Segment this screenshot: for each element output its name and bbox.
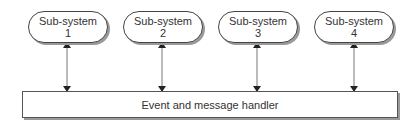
subsystem-2-number: 2 <box>160 27 166 39</box>
subsystem-2-node: Sub-system 2 <box>123 11 203 43</box>
subsystem-3-number: 3 <box>255 27 261 39</box>
handler-label: Event and message handler <box>142 99 279 111</box>
subsystem-4-number: 4 <box>351 27 357 39</box>
subsystem-1-label: Sub-system <box>39 15 97 27</box>
subsystem-2-label: Sub-system <box>134 15 192 27</box>
subsystem-1-number: 1 <box>65 27 71 39</box>
subsystem-3-node: Sub-system 3 <box>218 11 298 43</box>
subsystem-4-label: Sub-system <box>325 15 383 27</box>
subsystem-3-label: Sub-system <box>229 15 287 27</box>
subsystem-4-node: Sub-system 4 <box>314 11 394 43</box>
subsystem-1-node: Sub-system 1 <box>28 11 108 43</box>
event-message-handler-node: Event and message handler <box>22 91 398 118</box>
